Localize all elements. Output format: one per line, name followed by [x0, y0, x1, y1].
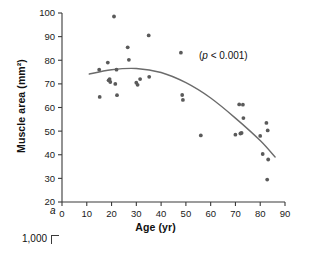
x-tick-label: 40 [156, 208, 167, 219]
x-axis-ticks [62, 202, 285, 206]
figure-panel-a: 2030405060708090100 0102030405060708090 … [0, 0, 311, 254]
y-tick-label: 70 [44, 78, 55, 89]
data-point [127, 58, 131, 62]
data-point [180, 93, 184, 97]
x-tick-label: 30 [131, 208, 142, 219]
data-point [199, 134, 203, 138]
next-panel-axis-corner [51, 235, 59, 244]
data-point [97, 68, 101, 72]
y-axis-title: Muscle area (mm²) [15, 31, 27, 181]
y-tick-label: 90 [44, 31, 55, 42]
y-tick-label: 50 [44, 126, 55, 137]
data-point [181, 98, 185, 102]
data-point [265, 121, 269, 125]
x-tick-label: 80 [255, 208, 266, 219]
next-panel-partial-axis: 1,000 [22, 233, 59, 244]
axes [62, 13, 285, 202]
data-point [147, 34, 151, 38]
data-point [234, 133, 238, 137]
data-point [240, 131, 244, 135]
x-tick-label: 10 [81, 208, 92, 219]
data-point [266, 129, 270, 133]
data-point [258, 134, 262, 138]
panel-label-a: a [50, 205, 56, 216]
data-point [126, 45, 130, 49]
x-tick-label: 0 [59, 208, 64, 219]
data-point [138, 77, 142, 81]
data-point [113, 82, 117, 86]
x-tick-label: 70 [230, 208, 241, 219]
y-tick-label: 80 [44, 55, 55, 66]
y-tick-label: 40 [44, 149, 55, 160]
data-point [115, 93, 119, 97]
x-tick-label: 20 [106, 208, 117, 219]
x-tick-label: 90 [280, 208, 291, 219]
y-tick-label: 30 [44, 173, 55, 184]
x-tick-label: 60 [205, 208, 216, 219]
y-axis-ticks [58, 13, 62, 202]
y-axis-tick-labels: 2030405060708090100 [39, 7, 55, 207]
data-point [237, 103, 241, 107]
data-point [112, 15, 116, 19]
regression-fit-curve [89, 68, 275, 157]
x-axis-title: Age (yr) [0, 221, 311, 233]
data-point [261, 152, 265, 156]
y-tick-label: 60 [44, 102, 55, 113]
x-tick-label: 50 [181, 208, 192, 219]
data-point [115, 68, 119, 72]
scatter-plot-canvas: 2030405060708090100 0102030405060708090 [0, 0, 311, 254]
data-point [265, 178, 269, 182]
data-point [242, 116, 246, 120]
data-point [241, 103, 245, 107]
data-point [98, 95, 102, 99]
annotation-rest: < 0.001) [208, 50, 248, 61]
p-value-annotation: (p < 0.001) [199, 50, 248, 61]
scatter-data-points [97, 15, 270, 182]
data-point [266, 158, 270, 162]
data-point [106, 61, 110, 65]
x-axis-tick-labels: 0102030405060708090 [59, 208, 290, 219]
y-tick-label: 100 [39, 7, 55, 18]
data-point [136, 83, 140, 87]
next-panel-tick-label: 1,000 [22, 233, 47, 244]
data-point [179, 51, 183, 55]
data-point [147, 75, 151, 79]
data-point [108, 80, 112, 84]
